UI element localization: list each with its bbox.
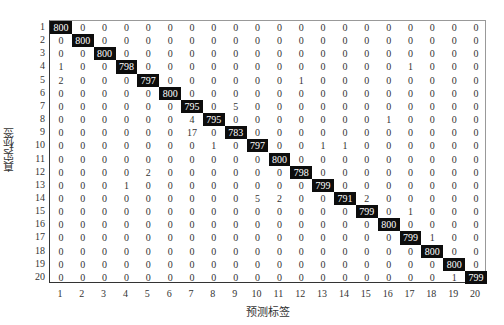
x-tick-label: 19 bbox=[442, 288, 464, 299]
matrix-cell: 0 bbox=[290, 126, 312, 139]
matrix-cell: 0 bbox=[116, 192, 138, 205]
matrix-cell: 0 bbox=[400, 258, 422, 271]
matrix-cell: 0 bbox=[94, 100, 116, 113]
matrix-cell: 0 bbox=[400, 47, 422, 60]
matrix-cell: 0 bbox=[290, 179, 312, 192]
matrix-cell: 0 bbox=[421, 258, 443, 271]
x-tick-label: 13 bbox=[311, 288, 333, 299]
matrix-cell: 0 bbox=[465, 100, 487, 113]
matrix-cell: 0 bbox=[137, 126, 159, 139]
matrix-cell: 0 bbox=[312, 231, 334, 244]
matrix-cell: 0 bbox=[94, 34, 116, 47]
matrix-cell: 0 bbox=[443, 153, 465, 166]
matrix-cell: 0 bbox=[421, 192, 443, 205]
x-tick-label: 10 bbox=[246, 288, 268, 299]
matrix-cell: 0 bbox=[203, 47, 225, 60]
matrix-cell: 0 bbox=[247, 166, 269, 179]
matrix-cell-diagonal: 799 bbox=[356, 205, 378, 218]
matrix-cell: 0 bbox=[181, 271, 203, 284]
matrix-cell: 0 bbox=[269, 60, 291, 73]
matrix-cell: 0 bbox=[116, 245, 138, 258]
matrix-cell: 0 bbox=[378, 139, 400, 152]
matrix-cell: 0 bbox=[378, 192, 400, 205]
matrix-cell: 0 bbox=[421, 60, 443, 73]
matrix-cell: 0 bbox=[137, 21, 159, 34]
matrix-cell: 0 bbox=[356, 87, 378, 100]
y-tick-label: 17 bbox=[27, 230, 45, 243]
matrix-cell: 0 bbox=[116, 218, 138, 231]
matrix-cell: 0 bbox=[334, 21, 356, 34]
matrix-cell: 0 bbox=[94, 179, 116, 192]
matrix-cell: 0 bbox=[159, 100, 181, 113]
matrix-cell: 0 bbox=[356, 245, 378, 258]
matrix-cell: 5 bbox=[225, 100, 247, 113]
matrix-cell: 0 bbox=[72, 87, 94, 100]
matrix-cell: 0 bbox=[421, 34, 443, 47]
matrix-cell: 0 bbox=[443, 205, 465, 218]
matrix-cell: 0 bbox=[312, 47, 334, 60]
matrix-cell: 0 bbox=[247, 21, 269, 34]
matrix-cell: 0 bbox=[225, 74, 247, 87]
matrix-cell: 0 bbox=[159, 113, 181, 126]
matrix-cell: 0 bbox=[225, 271, 247, 284]
matrix-cell: 0 bbox=[50, 139, 72, 152]
matrix-cell: 0 bbox=[159, 153, 181, 166]
matrix-cell: 0 bbox=[72, 245, 94, 258]
matrix-cell: 0 bbox=[334, 245, 356, 258]
matrix-cell-diagonal: 800 bbox=[443, 258, 465, 271]
matrix-cell: 0 bbox=[159, 218, 181, 231]
matrix-cell: 0 bbox=[72, 21, 94, 34]
matrix-cell: 0 bbox=[378, 47, 400, 60]
matrix-cell: 0 bbox=[443, 47, 465, 60]
matrix-cell: 0 bbox=[247, 87, 269, 100]
matrix-cell: 0 bbox=[443, 34, 465, 47]
matrix-cell: 0 bbox=[334, 231, 356, 244]
matrix-cell: 0 bbox=[334, 74, 356, 87]
matrix-cell: 0 bbox=[378, 21, 400, 34]
matrix-cell: 0 bbox=[269, 166, 291, 179]
y-tick-label: 7 bbox=[27, 99, 45, 112]
matrix-cell: 0 bbox=[225, 205, 247, 218]
matrix-cell: 0 bbox=[72, 74, 94, 87]
matrix-cell: 0 bbox=[181, 21, 203, 34]
matrix-cell: 0 bbox=[159, 60, 181, 73]
y-tick-label: 3 bbox=[27, 46, 45, 59]
matrix-cell: 0 bbox=[290, 21, 312, 34]
matrix-cell: 0 bbox=[400, 34, 422, 47]
matrix-cell: 0 bbox=[269, 245, 291, 258]
matrix-cell: 0 bbox=[465, 87, 487, 100]
matrix-cell: 0 bbox=[334, 34, 356, 47]
matrix-cell: 0 bbox=[356, 258, 378, 271]
matrix-cell: 0 bbox=[137, 245, 159, 258]
matrix-cell: 0 bbox=[225, 34, 247, 47]
y-tick-label: 2 bbox=[27, 33, 45, 46]
matrix-cell: 0 bbox=[443, 87, 465, 100]
matrix-cell: 0 bbox=[181, 74, 203, 87]
matrix-cell-diagonal: 799 bbox=[312, 179, 334, 192]
matrix-cell-diagonal: 800 bbox=[378, 218, 400, 231]
matrix-cell: 0 bbox=[72, 179, 94, 192]
matrix-cell: 0 bbox=[247, 34, 269, 47]
matrix-cell: 0 bbox=[465, 47, 487, 60]
matrix-cell: 0 bbox=[465, 34, 487, 47]
matrix-cell: 0 bbox=[137, 139, 159, 152]
matrix-cell: 5 bbox=[247, 192, 269, 205]
matrix-cell: 0 bbox=[72, 126, 94, 139]
matrix-cell: 0 bbox=[116, 74, 138, 87]
matrix-cell: 0 bbox=[443, 218, 465, 231]
matrix-cell: 0 bbox=[137, 60, 159, 73]
matrix-cell: 0 bbox=[356, 231, 378, 244]
matrix-cell: 1 bbox=[290, 74, 312, 87]
matrix-cell: 0 bbox=[116, 100, 138, 113]
matrix-cell: 0 bbox=[465, 231, 487, 244]
matrix-cell: 0 bbox=[378, 179, 400, 192]
matrix-cell: 0 bbox=[181, 258, 203, 271]
matrix-cell: 0 bbox=[225, 166, 247, 179]
matrix-cell: 0 bbox=[465, 60, 487, 73]
matrix-cell: 0 bbox=[312, 34, 334, 47]
matrix-cell: 0 bbox=[225, 231, 247, 244]
matrix-cell: 0 bbox=[378, 126, 400, 139]
matrix-cell: 17 bbox=[181, 126, 203, 139]
matrix-cell: 0 bbox=[312, 100, 334, 113]
matrix-cell: 0 bbox=[50, 218, 72, 231]
